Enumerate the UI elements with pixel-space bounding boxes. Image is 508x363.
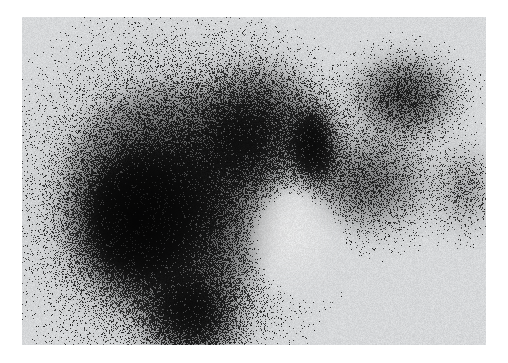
uptake-region-dense-core — [82, 160, 186, 284]
uptake-region-cold-defect — [246, 184, 334, 280]
scan-page — [0, 0, 508, 363]
scintigraphy-image — [22, 17, 486, 345]
activity-layer — [22, 17, 486, 345]
uptake-region-right-upper-uptake — [356, 59, 452, 135]
uptake-region-far-right-faint — [439, 149, 486, 229]
